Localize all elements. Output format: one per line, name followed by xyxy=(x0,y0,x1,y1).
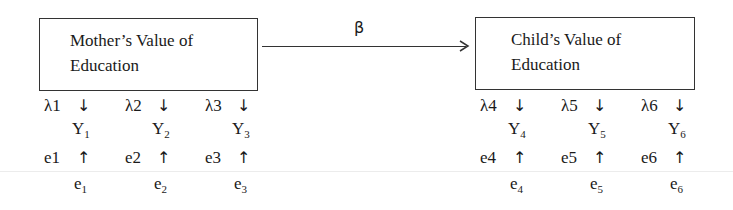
indicator-y-subscript: 4 xyxy=(520,128,526,140)
error-term-subscript: 6 xyxy=(678,183,684,195)
loading-label: λ3 xyxy=(205,96,222,116)
indicator-y-letter: Y xyxy=(232,119,244,138)
error-term-letter: e xyxy=(670,174,678,193)
error-term-letter: e xyxy=(234,174,242,193)
loading-label: λ5 xyxy=(561,96,578,116)
arrow-up-icon: ↑ xyxy=(673,148,686,168)
faint-rule xyxy=(0,171,733,172)
indicator-y-letter: Y xyxy=(588,119,600,138)
arrow-down-icon: ↓ xyxy=(593,96,606,116)
arrow-down-icon: ↓ xyxy=(673,96,686,116)
arrow-right-icon xyxy=(458,40,470,52)
indicator-y: Y3 xyxy=(232,119,250,140)
arrow-up-icon: ↑ xyxy=(513,148,526,168)
arrow-down-icon: ↓ xyxy=(157,96,170,116)
indicator-y-subscript: 6 xyxy=(680,128,686,140)
arrow-up-icon: ↑ xyxy=(593,148,606,168)
indicator-y-letter: Y xyxy=(668,119,680,138)
latent-mother-line2: Education xyxy=(70,53,193,78)
error-term-subscript: 2 xyxy=(162,183,168,195)
error-label: e6 xyxy=(641,148,657,168)
indicator-y: Y5 xyxy=(588,119,606,140)
beta-path-line xyxy=(262,46,466,47)
latent-mother-line1: Mother’s Value of xyxy=(70,28,193,53)
indicator-y-subscript: 5 xyxy=(600,128,606,140)
indicator-y: Y4 xyxy=(508,119,526,140)
latent-child-line1: Child’s Value of xyxy=(511,27,621,52)
arrow-up-icon: ↑ xyxy=(77,148,90,168)
error-label: e1 xyxy=(44,148,60,168)
indicator-y: Y1 xyxy=(72,119,90,140)
error-term: e5 xyxy=(590,174,603,195)
beta-label: β xyxy=(354,18,364,37)
error-term-letter: e xyxy=(154,174,162,193)
loading-label: λ2 xyxy=(125,96,142,116)
error-term: e2 xyxy=(154,174,167,195)
arrow-up-icon: ↑ xyxy=(157,148,170,168)
error-term-letter: e xyxy=(590,174,598,193)
indicator-y-letter: Y xyxy=(72,119,84,138)
error-term-subscript: 1 xyxy=(82,183,88,195)
error-term: e1 xyxy=(74,174,87,195)
arrow-down-icon: ↓ xyxy=(237,96,250,116)
loading-label: λ4 xyxy=(480,96,497,116)
error-label: e3 xyxy=(205,148,221,168)
latent-child-line2: Education xyxy=(511,52,621,77)
error-term-letter: e xyxy=(74,174,82,193)
arrow-up-icon: ↑ xyxy=(237,148,250,168)
indicator-y: Y6 xyxy=(668,119,686,140)
latent-mother-value-box: Mother’s Value of Education xyxy=(39,18,258,91)
arrow-down-icon: ↓ xyxy=(77,96,90,116)
error-term: e4 xyxy=(510,174,523,195)
indicator-y-letter: Y xyxy=(152,119,164,138)
error-term-subscript: 5 xyxy=(598,183,604,195)
indicator-y-subscript: 1 xyxy=(84,128,90,140)
error-term: e3 xyxy=(234,174,247,195)
indicator-y-subscript: 2 xyxy=(164,128,170,140)
error-term-letter: e xyxy=(510,174,518,193)
loading-label: λ6 xyxy=(641,96,658,116)
error-label: e5 xyxy=(561,148,577,168)
latent-mother-label: Mother’s Value of Education xyxy=(70,28,193,78)
indicator-y: Y2 xyxy=(152,119,170,140)
arrow-down-icon: ↓ xyxy=(513,96,526,116)
loading-label: λ1 xyxy=(44,96,61,116)
indicator-y-subscript: 3 xyxy=(244,128,250,140)
error-term-subscript: 4 xyxy=(518,183,524,195)
latent-child-label: Child’s Value of Education xyxy=(511,27,621,77)
indicator-y-letter: Y xyxy=(508,119,520,138)
error-term: e6 xyxy=(670,174,683,195)
latent-child-value-box: Child’s Value of Education xyxy=(475,17,695,90)
error-label: e2 xyxy=(125,148,141,168)
error-term-subscript: 3 xyxy=(242,183,248,195)
error-label: e4 xyxy=(480,148,496,168)
